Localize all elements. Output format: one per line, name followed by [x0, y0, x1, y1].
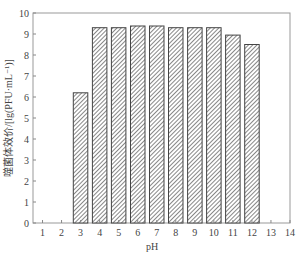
x-tick-label: 5	[116, 227, 121, 238]
x-tick-label: 10	[209, 227, 219, 238]
bar-ph-11	[226, 35, 241, 223]
bar-ph-6	[131, 26, 146, 223]
y-tick-label: 1	[24, 197, 29, 208]
x-tick-label: 3	[78, 227, 83, 238]
x-tick-label: 12	[247, 227, 257, 238]
x-tick-label: 4	[97, 227, 102, 238]
bar-ph-12	[245, 45, 260, 224]
y-tick-label: 4	[24, 134, 29, 145]
y-tick-label: 3	[24, 155, 29, 166]
bar-ph-7	[150, 26, 165, 223]
y-tick-label: 7	[24, 71, 29, 82]
x-tick-label: 13	[266, 227, 276, 238]
y-tick-label: 10	[19, 8, 29, 19]
y-tick-label: 6	[24, 92, 29, 103]
x-tick-label: 6	[135, 227, 140, 238]
y-axis-title: 噬菌体效价/[lg(PFU·mL⁻¹)]	[2, 59, 15, 177]
x-tick-label: 14	[285, 227, 295, 238]
bar-ph-10	[207, 28, 222, 223]
x-tick-label: 1	[40, 227, 45, 238]
y-tick-label: 9	[24, 29, 29, 40]
x-tick-label: 11	[228, 227, 238, 238]
x-axis-title: pH	[146, 241, 158, 252]
x-tick-label: 8	[173, 227, 178, 238]
y-tick-label: 0	[24, 218, 29, 229]
bar-ph-8	[169, 28, 184, 223]
y-tick-label: 8	[24, 50, 29, 61]
bars	[73, 26, 259, 223]
y-tick-label: 5	[24, 113, 29, 124]
bar-ph-5	[111, 28, 126, 223]
x-tick-label: 2	[59, 227, 64, 238]
x-tick-label: 9	[192, 227, 197, 238]
bar-ph-9	[188, 28, 203, 223]
y-tick-label: 2	[24, 176, 29, 187]
bar-ph-4	[92, 28, 107, 223]
x-tick-label: 7	[154, 227, 159, 238]
bar-ph-3	[73, 93, 88, 223]
bar-chart: 1234567891011121314 012345678910 pH 噬菌体效…	[0, 0, 300, 255]
